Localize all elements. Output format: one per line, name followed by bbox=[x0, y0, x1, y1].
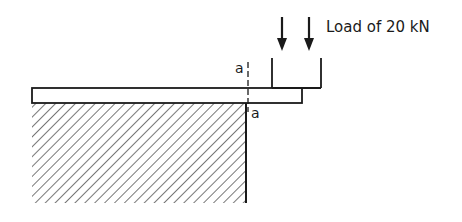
wall-hatching bbox=[32, 103, 246, 203]
wall-support bbox=[32, 103, 246, 203]
section-label-bottom: a bbox=[251, 105, 260, 121]
arrow-down-icon bbox=[304, 17, 314, 51]
load-label: Load of 20 kN bbox=[326, 18, 430, 36]
load-block bbox=[272, 58, 321, 88]
section-label-top: a bbox=[235, 60, 244, 76]
arrow-down-icon bbox=[277, 17, 287, 51]
cantilever-beam bbox=[32, 88, 302, 103]
load-arrows bbox=[277, 17, 314, 51]
cantilever-load-diagram: Load of 20 kN a a bbox=[0, 0, 462, 222]
